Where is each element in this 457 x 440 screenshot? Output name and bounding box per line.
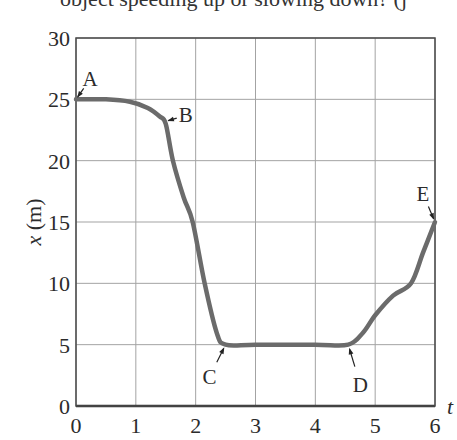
arrowhead-icon <box>167 117 174 122</box>
point-label: E <box>417 182 430 206</box>
y-axis-label: x (m) <box>21 198 46 246</box>
position-time-chart: 051015202530 0123456 ABCDE x (m) t <box>0 0 457 440</box>
x-tick-label: 6 <box>430 413 441 438</box>
x-axis-label: t <box>447 394 454 419</box>
annotation-a: A <box>77 67 98 97</box>
x-tick-label: 1 <box>130 413 141 438</box>
point-label: C <box>203 365 217 389</box>
x-tick-label: 0 <box>71 413 82 438</box>
y-tick-label: 15 <box>48 210 70 235</box>
x-tick-label: 4 <box>310 413 321 438</box>
y-tick-label: 30 <box>48 26 70 51</box>
y-tick-label: 10 <box>48 271 70 296</box>
arrowhead-icon <box>429 213 434 220</box>
annotation-e: E <box>417 182 434 220</box>
annotation-c: C <box>203 347 225 388</box>
arrowhead-icon <box>219 347 224 354</box>
grid-lines <box>76 38 435 406</box>
annotation-b: B <box>167 103 192 127</box>
y-tick-label: 0 <box>59 394 70 419</box>
point-label: D <box>353 373 368 397</box>
y-tick-label: 25 <box>48 87 70 112</box>
arrowhead-icon <box>349 348 354 355</box>
y-axis-ticks: 051015202530 <box>48 26 70 419</box>
point-label: A <box>82 67 98 91</box>
point-label: B <box>179 103 193 127</box>
x-tick-label: 5 <box>370 413 381 438</box>
x-axis-ticks: 0123456 <box>71 413 441 438</box>
x-tick-label: 3 <box>250 413 261 438</box>
x-tick-label: 2 <box>190 413 201 438</box>
y-tick-label: 5 <box>59 333 70 358</box>
annotation-d: D <box>349 348 368 397</box>
arrowhead-icon <box>77 91 83 98</box>
y-tick-label: 20 <box>48 149 70 174</box>
